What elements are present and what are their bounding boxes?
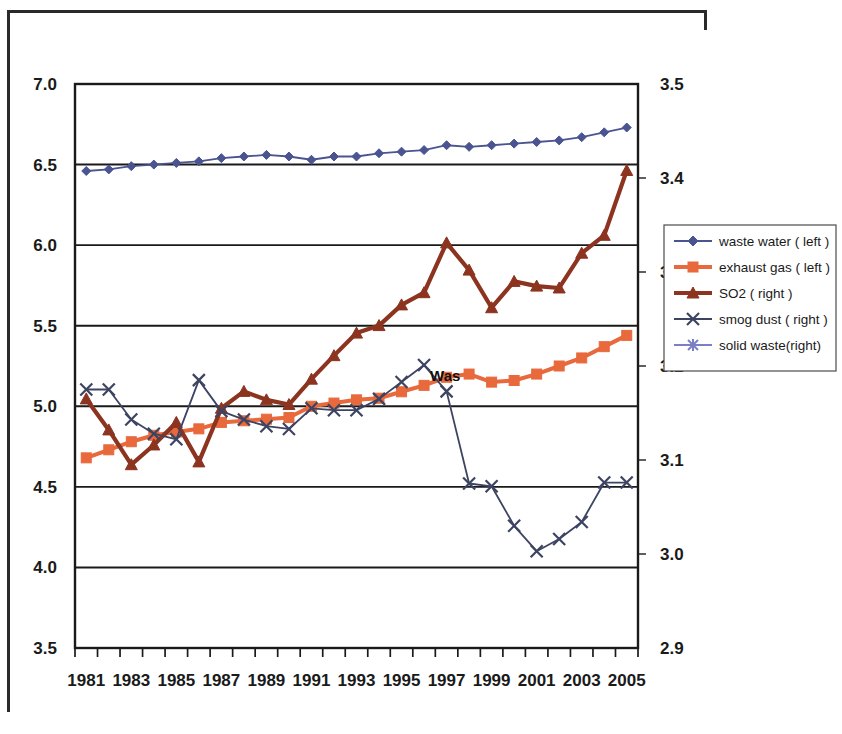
marker-cross [396, 376, 408, 388]
right-axis-tick-label: 2.9 [660, 639, 684, 658]
x-axis-tick-label: 1987 [202, 671, 240, 690]
marker-square [397, 387, 407, 397]
marker-diamond [307, 155, 316, 164]
x-axis-tick-label: 1999 [473, 671, 511, 690]
left-axis-tick-label: 7.0 [33, 75, 57, 94]
marker-diamond [622, 123, 631, 132]
marker-square [599, 342, 609, 352]
x-axis-tick-label: 1983 [112, 671, 150, 690]
x-axis-tick-labels: 1981198319851987198919911993199519971999… [67, 671, 645, 690]
legend-item-label: exhaust gas ( left ) [719, 260, 830, 275]
marker-triangle [441, 237, 453, 248]
x-axis-tick-label: 1993 [338, 671, 376, 690]
x-axis-tick-label: 1985 [157, 671, 195, 690]
marker-diamond [82, 167, 91, 176]
marker-square [554, 361, 564, 371]
marker-diamond [329, 152, 338, 161]
environment-indicators-line-chart: 7.06.56.05.55.04.54.03.5 3.53.43.33.23.1… [0, 0, 842, 734]
marker-diamond [127, 162, 136, 171]
left-axis-tick-labels: 7.06.56.05.55.04.54.03.5 [33, 75, 57, 658]
marker-square [81, 453, 91, 463]
marker-cross [531, 545, 543, 557]
right-axis-tick-label: 3.5 [660, 75, 684, 94]
marker-square [622, 330, 632, 340]
marker-square [194, 424, 204, 434]
chart-container: 7.06.56.05.55.04.54.03.5 3.53.43.33.23.1… [0, 0, 842, 734]
x-axis-tick-label: 2005 [608, 671, 646, 690]
left-axis-tick-label: 5.0 [33, 397, 57, 416]
marker-square [464, 369, 474, 379]
marker-diamond [149, 160, 158, 169]
legend-item-label: smog dust ( right ) [719, 312, 828, 327]
marker-cross [508, 520, 520, 532]
series-line [86, 170, 626, 464]
marker-diamond [172, 158, 181, 167]
marker-diamond [217, 154, 226, 163]
series-3 [80, 359, 632, 557]
series-1 [81, 330, 631, 462]
marker-cross [125, 414, 137, 426]
marker-diamond [262, 150, 271, 159]
marker-diamond [555, 136, 564, 145]
marker-square [104, 445, 114, 455]
marker-square [352, 395, 362, 405]
marker-cross [553, 533, 565, 545]
marker-diamond [577, 133, 586, 142]
right-axis-tick-label: 3.1 [660, 451, 684, 470]
marker-diamond [532, 138, 541, 147]
left-axis-tick-label: 6.0 [33, 236, 57, 255]
marker-diamond [352, 152, 361, 161]
marker-diamond [442, 141, 451, 150]
chart-annotations: Was [430, 367, 460, 384]
x-axis-tick-label: 1981 [67, 671, 105, 690]
marker-diamond [104, 165, 113, 174]
marker-cross [576, 516, 588, 528]
marker-cross [441, 385, 453, 397]
marker-diamond [487, 141, 496, 150]
marker-diamond [510, 139, 519, 148]
marker-diamond [239, 152, 248, 161]
marker-diamond [600, 128, 609, 137]
left-axis-tick-label: 4.5 [33, 478, 57, 497]
marker-diamond [465, 142, 474, 151]
marker-square [487, 377, 497, 387]
marker-diamond [375, 149, 384, 158]
series-line [86, 365, 626, 551]
marker-square [509, 376, 519, 386]
x-axis-tick-label: 1995 [383, 671, 421, 690]
x-axis-tick-label: 1991 [293, 671, 331, 690]
left-axis-tick-label: 4.0 [33, 558, 57, 577]
legend-item-label: SO2 ( right ) [719, 286, 793, 301]
left-axis-tick-label: 6.5 [33, 156, 57, 175]
x-axis-tick-label: 1997 [428, 671, 466, 690]
data-series-group [80, 123, 632, 557]
chart-annotation-text: Was [430, 367, 460, 384]
marker-triangle [598, 229, 610, 240]
marker-diamond [284, 152, 293, 161]
marker-square [577, 353, 587, 363]
marker-diamond [397, 147, 406, 156]
marker-diamond [420, 146, 429, 155]
series-2 [80, 164, 632, 469]
legend-item-label: waste water ( left ) [718, 234, 829, 249]
marker-triangle [621, 164, 633, 175]
right-axis-tick-label: 3.0 [660, 545, 684, 564]
right-axis-tick-label: 3.4 [660, 169, 684, 188]
marker-square [419, 380, 429, 390]
left-axis-tick-label: 3.5 [33, 639, 57, 658]
x-axis-tick-label: 2003 [563, 671, 601, 690]
marker-cross [193, 374, 205, 386]
x-axis-tick-label: 2001 [518, 671, 556, 690]
series-0 [82, 123, 631, 176]
marker-cross [418, 359, 430, 371]
marker-square [688, 262, 698, 272]
x-axis-tick-label: 1989 [248, 671, 286, 690]
legend-item-label: solid waste(right) [719, 338, 821, 353]
marker-square [532, 369, 542, 379]
marker-square [126, 437, 136, 447]
left-axis-tick-label: 5.5 [33, 317, 57, 336]
axis-ticks-group [75, 178, 646, 657]
marker-square [284, 413, 294, 423]
chart-legend: waste water ( left )exhaust gas ( left )… [664, 225, 836, 371]
